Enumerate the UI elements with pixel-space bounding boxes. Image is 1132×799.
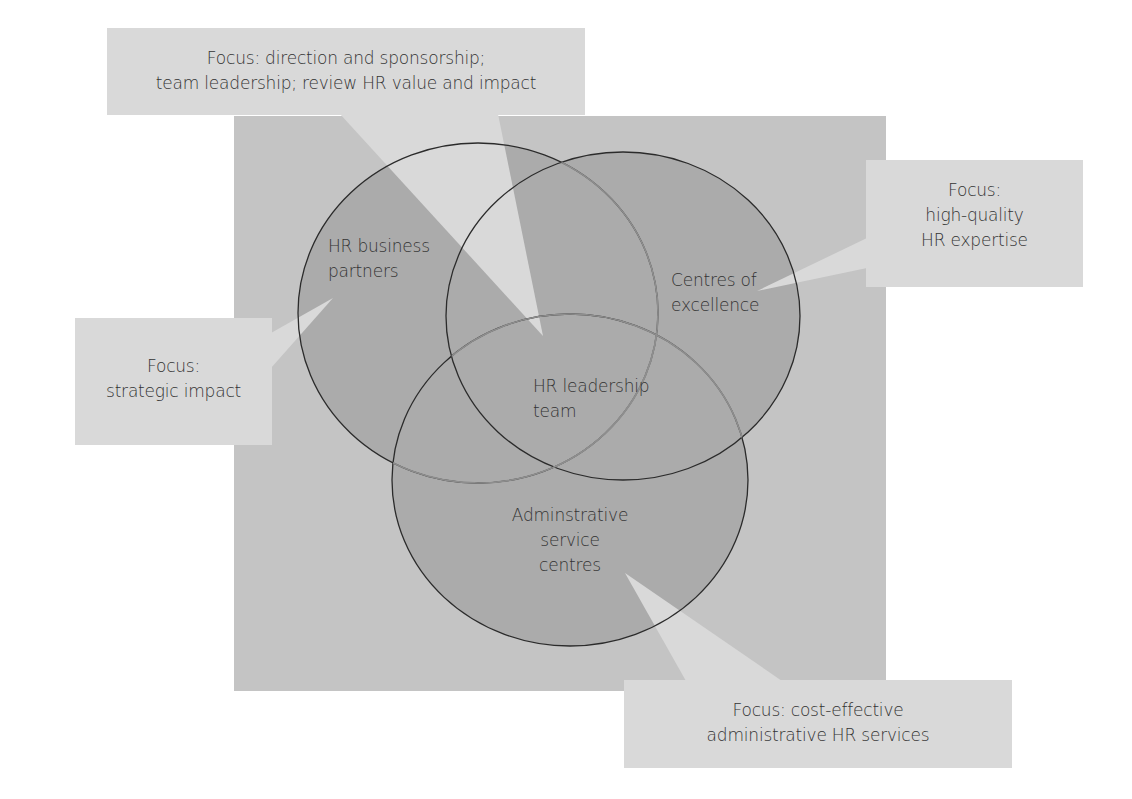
callout-text-right: Focus: high-quality HR expertise: [866, 178, 1083, 253]
callout-text-bottom: Focus: cost-effective administrative HR …: [624, 698, 1012, 748]
label-hr-leadership-team: HR leadership team: [533, 374, 693, 424]
label-centres-of-excellence: Centres of excellence: [671, 268, 811, 318]
callout-text-left: Focus: strategic impact: [75, 354, 272, 404]
label-administrative-service-centres: Adminstrative service centres: [490, 503, 650, 578]
callout-text-top: Focus: direction and sponsorship; team l…: [107, 46, 585, 96]
label-hr-business-partners: HR business partners: [328, 234, 468, 284]
